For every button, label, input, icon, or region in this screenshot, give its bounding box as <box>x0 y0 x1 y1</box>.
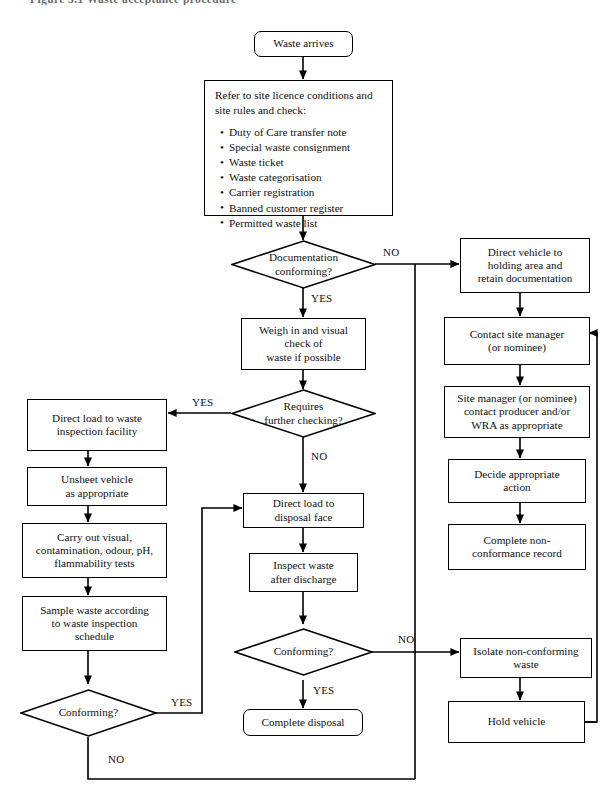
edge-label-further-checking-no: NO <box>311 450 327 462</box>
edge-label-further-checking-yes: YES <box>192 396 213 408</box>
list-item: Duty of Care transfer note <box>220 125 383 140</box>
node-weigh-in[interactable]: Weigh in and visual check of waste if po… <box>241 318 366 370</box>
list-item: Carrier registration <box>220 185 383 200</box>
list-item: Waste categorisation <box>220 170 383 185</box>
list-item: Banned customer register <box>220 201 383 216</box>
list-item: Special waste consignment <box>220 140 383 155</box>
node-isolate-waste[interactable]: Isolate non-conforming waste <box>460 638 592 678</box>
node-refer-site-licence[interactable]: Refer to site licence conditions and sit… <box>204 80 393 216</box>
node-contact-site-manager[interactable]: Contact site manager (or nominee) <box>444 317 590 365</box>
node-direct-load-disposal[interactable]: Direct load to disposal face <box>243 493 364 528</box>
node-sample-waste[interactable]: Sample waste according to waste inspecti… <box>22 596 167 651</box>
node-waste-arrives[interactable]: Waste arrives <box>254 31 353 57</box>
refer-checklist: Duty of Care transfer note Special waste… <box>215 125 383 231</box>
node-direct-vehicle-holding[interactable]: Direct vehicle to holding area and retai… <box>460 238 590 293</box>
node-complete-disposal[interactable]: Complete disposal <box>243 709 363 736</box>
edge-label-conforming-inspection-no: NO <box>108 753 124 765</box>
decision-shape-requires-further-checking[interactable] <box>231 389 376 438</box>
node-decide-action[interactable]: Decide appropriate action <box>448 459 586 503</box>
node-hold-vehicle[interactable]: Hold vehicle <box>448 701 585 743</box>
node-direct-load-inspection[interactable]: Direct load to waste inspection facility <box>27 399 167 451</box>
edge-label-conforming-discharge-no: NO <box>398 633 414 645</box>
edge-label-documentation-no: NO <box>383 246 399 258</box>
refer-heading: Refer to site licence conditions and sit… <box>215 88 383 118</box>
edge-label-conforming-discharge-yes: YES <box>313 684 334 696</box>
list-item: Waste ticket <box>220 155 383 170</box>
edge-label-documentation-yes: YES <box>311 292 332 304</box>
node-carry-out-tests[interactable]: Carry out visual, contamination, odour, … <box>22 523 167 578</box>
decision-shape-conforming-discharge[interactable] <box>234 628 373 676</box>
list-item: Permitted waste list <box>220 216 383 231</box>
figure-page: Figure 3.1 Waste acceptance procedure <box>0 0 615 808</box>
edge-label-conforming-inspection-yes: YES <box>171 696 192 708</box>
node-inspect-waste[interactable]: Inspect waste after discharge <box>249 553 358 592</box>
decision-shape-conforming-inspection[interactable] <box>20 689 157 737</box>
node-unsheet-vehicle[interactable]: Unsheet vehicle as appropriate <box>27 467 167 506</box>
node-complete-non-conformance[interactable]: Complete non- conformance record <box>448 524 586 570</box>
decision-shape-documentation-conforming[interactable] <box>231 240 376 289</box>
node-site-manager-contact-producer[interactable]: Site manager (or nominee) contact produc… <box>444 386 590 438</box>
